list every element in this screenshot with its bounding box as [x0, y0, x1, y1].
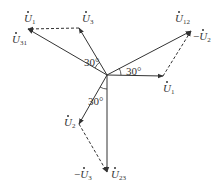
- phasor-dot-icon: [114, 167, 116, 169]
- vector-label: U3: [82, 12, 94, 26]
- angle-label: 30°: [84, 56, 99, 68]
- vector-label: −U2: [193, 30, 211, 44]
- phasor-dot-icon: [83, 167, 85, 169]
- phasor-dot-icon: [67, 115, 69, 117]
- phasor-diagram: U1U31U3U12−U2U1U2−U3U23 30°30°30°: [0, 0, 219, 188]
- angle-arc-u1-u12: [119, 68, 121, 75]
- angle-arc-u2-u23: [100, 87, 107, 89]
- vector-u31: [28, 29, 107, 75]
- angle-label: 30°: [88, 95, 103, 107]
- phasor-dot-icon: [178, 11, 180, 13]
- angle-label: 30°: [126, 65, 141, 77]
- phasor-dot-icon: [166, 81, 168, 83]
- phasor-dot-icon: [202, 29, 204, 31]
- phasor-dot-icon: [85, 11, 87, 13]
- vector-label: U1: [24, 12, 36, 26]
- vector-label: U1: [163, 82, 175, 96]
- vector-negu2: [163, 31, 191, 76]
- vector-label: −U3: [74, 168, 92, 182]
- vector-negu3: [79, 124, 107, 172]
- phasor-dot-icon: [27, 11, 29, 13]
- angle-label-group: 30°30°30°: [84, 56, 141, 107]
- vector-label: U23: [111, 168, 126, 182]
- vector-group: [28, 28, 191, 172]
- vector-label: U2: [64, 116, 76, 130]
- vector-label: U31: [12, 33, 27, 47]
- vector-label: U12: [175, 12, 190, 26]
- vector-negu1: [28, 28, 79, 29]
- phasor-dot-icon: [15, 32, 17, 34]
